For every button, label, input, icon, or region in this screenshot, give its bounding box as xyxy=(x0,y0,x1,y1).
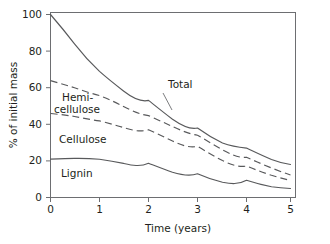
y-axis-title: % of initial mass xyxy=(7,62,19,149)
x-axis-ticks xyxy=(51,198,291,203)
y-axis-ticks xyxy=(46,15,51,198)
y-tick-label-40: 40 xyxy=(29,118,42,130)
decay-line-chart: 0 20 40 60 80 100 0 1 2 3 4 5 Time (year… xyxy=(0,0,330,244)
x-axis-title: Time (years) xyxy=(144,222,211,234)
x-tick-label-5: 5 xyxy=(287,203,294,215)
x-tick-label-1: 1 xyxy=(96,203,103,215)
y-tick-label-0: 0 xyxy=(35,191,42,203)
series-label-lignin: Lignin xyxy=(61,167,93,179)
y-tick-label-80: 80 xyxy=(29,45,42,57)
series-label-cellulose: Cellulose xyxy=(59,133,107,145)
y-tick-label-20: 20 xyxy=(29,154,42,166)
y-tick-label-60: 60 xyxy=(29,81,42,93)
x-tick-label-0: 0 xyxy=(47,203,54,215)
chart-figure: 0 20 40 60 80 100 0 1 2 3 4 5 Time (year… xyxy=(0,0,330,244)
series-label-total: Total xyxy=(167,78,193,90)
series-label-hemicellulose-line1: Hemi- xyxy=(62,91,94,103)
series-label-hemicellulose-line2: cellulose xyxy=(54,103,100,115)
y-axis-tick-labels: 0 20 40 60 80 100 xyxy=(22,8,42,203)
x-tick-label-3: 3 xyxy=(194,203,201,215)
total-leader-line xyxy=(163,93,172,110)
x-axis-tick-labels: 0 1 2 3 4 5 xyxy=(47,203,294,215)
x-tick-label-2: 2 xyxy=(145,203,152,215)
y-tick-label-100: 100 xyxy=(22,8,42,20)
x-tick-label-4: 4 xyxy=(243,203,250,215)
